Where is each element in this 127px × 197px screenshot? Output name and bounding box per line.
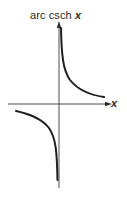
y-axis-arrow-icon <box>57 21 61 28</box>
y-axis-label-text: arc csch <box>30 9 72 21</box>
curve-negative-branch <box>16 111 58 180</box>
curve-positive-branch <box>61 28 104 97</box>
x-axis-label: x <box>111 97 117 109</box>
plot-area <box>0 0 127 197</box>
arccsch-graph: arc csch x x <box>0 0 127 197</box>
y-axis-label: arc csch x <box>30 9 81 21</box>
y-axis-label-variable: x <box>75 9 81 21</box>
